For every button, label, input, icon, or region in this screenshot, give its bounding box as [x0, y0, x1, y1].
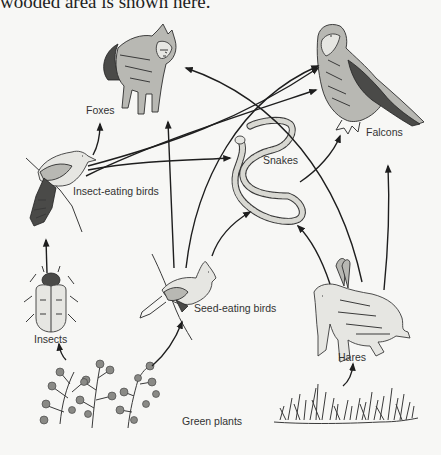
label-snakes: Snakes: [263, 154, 298, 166]
label-insect-eating-birds: Insect-eating birds: [73, 185, 159, 197]
label-insects: Insects: [34, 333, 67, 345]
fox-icon: [104, 24, 176, 114]
label-seed-eating-birds: Seed-eating birds: [194, 302, 276, 314]
label-falcons: Falcons: [366, 126, 403, 138]
arrow-hares-to-snakes: [298, 226, 330, 284]
label-foxes: Foxes: [86, 104, 115, 116]
label-hares: Hares: [338, 351, 366, 363]
plants-icon: [40, 360, 160, 428]
snake-icon: [235, 120, 302, 221]
arrow-hares-to-falcons: [384, 166, 389, 290]
arrow-seed-birds-to-snakes: [212, 212, 250, 256]
seed-eating-bird-icon: [140, 254, 216, 340]
food-web-diagram: wooded area is shown here.: [0, 0, 441, 455]
food-web-drawing: [0, 0, 441, 455]
arrow-insects-to-insect-birds: [46, 240, 47, 273]
falcon-icon: [317, 24, 424, 134]
arrow-grass-to-hares: [343, 364, 353, 386]
beetle-icon: [24, 266, 78, 332]
hare-icon: [314, 259, 410, 362]
arrow-plants-to-insects: [59, 344, 66, 360]
label-green-plants: Green plants: [182, 415, 242, 427]
arrow-plants-to-seed-birds: [152, 322, 182, 366]
grass-icon: [274, 384, 418, 424]
arrow-seed-birds-to-foxes: [168, 122, 174, 268]
arrow-insect-birds-to-foxes: [93, 124, 100, 155]
